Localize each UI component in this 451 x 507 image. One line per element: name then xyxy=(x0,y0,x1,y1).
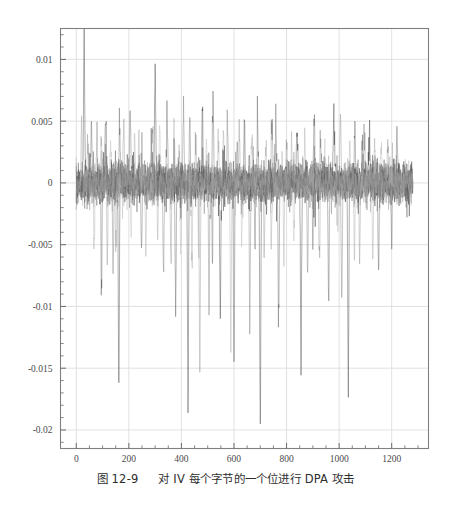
y-tick-label: -0.005 xyxy=(28,240,53,250)
y-tick-label: 0.005 xyxy=(31,117,53,127)
dpa-trace-plot: 0200400600800100012000.010.0050-0.005-0.… xyxy=(0,0,451,465)
figure-caption: 图 12-9 对 IV 每个字节的一个位进行 DPA 攻击 xyxy=(0,470,451,486)
x-tick-label: 0 xyxy=(74,454,79,464)
plot-background xyxy=(0,0,451,465)
x-tick-label: 800 xyxy=(279,454,294,464)
figure-root: 0200400600800100012000.010.0050-0.005-0.… xyxy=(0,0,451,507)
caption-number: 图 12-9 xyxy=(97,472,139,486)
x-tick-label: 400 xyxy=(174,454,189,464)
y-tick-label: -0.015 xyxy=(28,364,53,374)
y-tick-label: 0 xyxy=(48,178,53,188)
x-tick-label: 200 xyxy=(122,454,137,464)
x-tick-label: 1200 xyxy=(382,454,401,464)
x-tick-label: 1000 xyxy=(330,454,349,464)
y-tick-label: -0.02 xyxy=(33,425,53,435)
y-tick-label: 0.01 xyxy=(36,55,53,65)
y-tick-label: -0.01 xyxy=(33,302,53,312)
plot-area: 0200400600800100012000.010.0050-0.005-0.… xyxy=(0,0,451,465)
caption-body: 对 IV 每个字节的一个位进行 DPA 攻击 xyxy=(158,472,354,486)
x-tick-label: 600 xyxy=(227,454,242,464)
